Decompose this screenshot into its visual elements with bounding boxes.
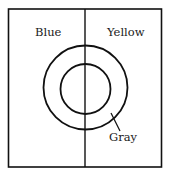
label-gray: Gray bbox=[109, 130, 138, 144]
label-yellow: Yellow bbox=[106, 25, 145, 39]
label-blue: Blue bbox=[35, 25, 62, 39]
diagram-svg: Blue Yellow Gray bbox=[0, 0, 169, 175]
diagram-canvas: Blue Yellow Gray bbox=[0, 0, 169, 175]
